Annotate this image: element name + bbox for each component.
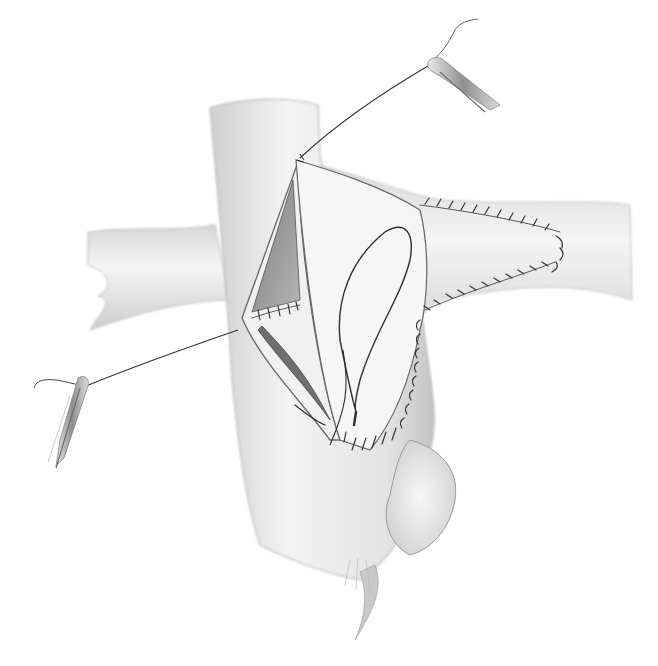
surgical-illustration [0, 0, 658, 666]
horizontal-left-branch [88, 225, 230, 330]
suture-clamp-top-right [296, 19, 500, 162]
suture-clamp-bottom-left [34, 330, 238, 468]
